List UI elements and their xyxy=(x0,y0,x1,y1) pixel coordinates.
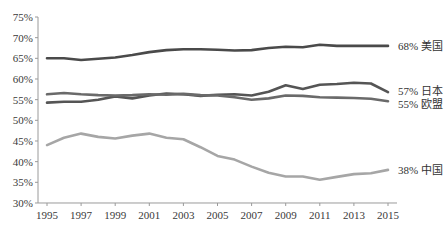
x-tick-label: 2013 xyxy=(343,209,366,221)
x-tick-label: 2015 xyxy=(377,209,400,221)
x-tick-label: 2007 xyxy=(241,209,264,221)
y-tick-label: 35% xyxy=(13,176,33,188)
series-labels: 68% 美国57% 日本55% 欧盟38% 中国 xyxy=(398,40,443,176)
x-tick-label: 2009 xyxy=(275,209,298,221)
y-tick-label: 45% xyxy=(13,135,33,147)
y-tick-label: 65% xyxy=(13,52,33,64)
series-line-0 xyxy=(47,45,388,60)
x-tick-label: 2001 xyxy=(138,209,160,221)
series-end-label: 55% 欧盟 xyxy=(398,98,443,110)
x-tick-label: 1995 xyxy=(36,209,59,221)
series-line-3 xyxy=(47,134,388,180)
series-end-label: 68% 美国 xyxy=(398,40,443,52)
series-line-1 xyxy=(47,83,388,103)
x-tick-label: 2005 xyxy=(207,209,230,221)
y-tick-label: 55% xyxy=(13,94,33,106)
x-tick-label: 2011 xyxy=(309,209,331,221)
y-tick-label: 40% xyxy=(13,156,33,168)
series-end-label: 38% 中国 xyxy=(398,164,443,176)
series-lines xyxy=(47,45,388,180)
series-end-label: 57% 日本 xyxy=(398,84,443,97)
y-tick-label: 30% xyxy=(13,197,33,209)
y-tick-label: 75% xyxy=(13,11,33,23)
x-axis: 1995199719992001200320052007200920112013… xyxy=(36,203,400,221)
x-tick-label: 1999 xyxy=(104,209,127,221)
line-chart: 30%35%40%45%50%55%60%65%70%75% 199519971… xyxy=(0,0,448,229)
y-tick-label: 70% xyxy=(13,32,33,44)
y-tick-label: 50% xyxy=(13,114,33,126)
y-tick-label: 60% xyxy=(13,73,33,85)
x-tick-label: 2003 xyxy=(172,209,195,221)
x-tick-label: 1997 xyxy=(70,209,93,221)
y-axis: 30%35%40%45%50%55%60%65%70%75% xyxy=(13,11,38,209)
